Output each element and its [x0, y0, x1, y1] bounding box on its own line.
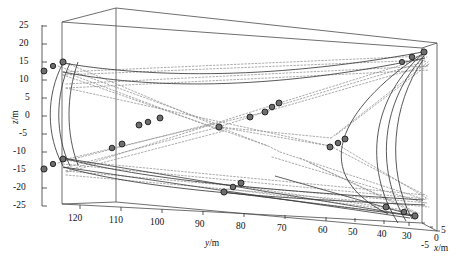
catenary-right-mid	[386, 56, 424, 221]
node-marker	[157, 115, 163, 121]
tether-ul-b	[58, 66, 214, 123]
node-marker	[409, 54, 415, 60]
y-axis-title: y/m	[205, 238, 219, 248]
y-tick-label-30: 30	[402, 232, 412, 242]
z-tick-label-m10: -10	[13, 147, 26, 157]
tether-span-5	[63, 160, 425, 195]
y-tick-label-80: 80	[236, 222, 246, 232]
catenary-bottom-back	[63, 167, 425, 205]
node-marker	[216, 124, 222, 130]
tether-mid-3	[219, 127, 268, 146]
node-marker	[247, 114, 253, 120]
node-marker	[230, 184, 236, 190]
node-marker	[50, 161, 55, 166]
y-tick-label-40: 40	[377, 230, 387, 240]
catenary-top-back	[63, 58, 425, 84]
z-tick-label-m15: -15	[13, 165, 26, 175]
node-marker	[327, 144, 333, 150]
x-axis-title-unit: /m	[438, 243, 448, 253]
node-marker	[60, 156, 66, 162]
catenary-left-inner	[59, 63, 70, 166]
z-axis-title-var: z	[10, 120, 20, 124]
node-marker	[412, 213, 418, 219]
node-marker	[383, 204, 389, 210]
z-tick-label-25: 25	[19, 21, 29, 31]
node-marker	[60, 59, 66, 65]
tether-ll-c	[67, 131, 224, 172]
node-marker	[276, 100, 282, 106]
z-tick-label-m20: -20	[13, 183, 26, 193]
y-tick-label-120: 120	[68, 214, 82, 224]
tether-r-h	[280, 152, 426, 200]
node-marker	[421, 49, 427, 55]
node-marker	[145, 119, 151, 125]
node-marker	[399, 59, 404, 64]
node-marker	[41, 166, 47, 172]
member-lr-2	[63, 167, 410, 218]
catenary-curves-solid	[50, 52, 425, 223]
box-edge-bottom-left	[62, 202, 116, 204]
catenary-left-outer	[50, 63, 63, 166]
z-tick-label-m5: -5	[19, 129, 27, 139]
tether-diag-1	[66, 88, 330, 146]
z-axis-title: z/m	[10, 110, 20, 124]
y-tick-label-110: 110	[109, 216, 123, 226]
node-marker	[50, 63, 55, 68]
node-marker	[269, 104, 275, 110]
figure-3d-mooring-plot: 25 20 15 10 5 0 -5 -10 -15 -20 -25 120 1…	[0, 0, 456, 259]
x-axis-title: x/m	[434, 243, 448, 253]
y-axis-title-unit: /m	[209, 238, 219, 248]
box-edge-top-right	[422, 43, 437, 48]
y-tick-label-90: 90	[195, 220, 205, 230]
y-tick-label-50: 50	[348, 228, 358, 238]
z-tick-label-m25: -25	[13, 201, 26, 211]
node-marker	[238, 180, 244, 186]
z-tick-label-5: 5	[25, 93, 30, 103]
tether-mid-4	[268, 146, 280, 152]
x-tick-label-5: 5	[441, 226, 446, 236]
z-axis-title-unit: /m	[10, 110, 20, 120]
box-edge-top-left	[62, 8, 116, 22]
z-tick-label-20: 20	[19, 39, 29, 49]
node-marker	[136, 122, 142, 128]
tether-diag-2	[66, 104, 276, 171]
y-tick-label-100: 100	[150, 218, 164, 228]
node-marker	[119, 141, 125, 147]
catenary-top-front	[63, 52, 423, 74]
z-tick-label-0: 0	[25, 111, 30, 121]
tether-span-3	[66, 66, 428, 84]
y-tick-label-60: 60	[318, 226, 328, 236]
z-axis	[42, 25, 47, 206]
node-marker	[262, 109, 268, 115]
node-marker	[335, 140, 341, 146]
tether-r-f	[330, 146, 427, 196]
node-marker	[109, 145, 115, 151]
node-marker	[221, 189, 227, 195]
node-marker	[401, 209, 407, 215]
z-tick-label-10: 10	[19, 75, 29, 85]
node-marker	[342, 136, 348, 142]
x-tick-label-m5: -5	[421, 241, 429, 251]
tether-mid-1	[219, 112, 265, 127]
node-marker	[41, 68, 47, 74]
y-tick-label-70: 70	[277, 224, 287, 234]
catenary-right-wide	[341, 52, 425, 214]
z-tick-label-15: 15	[19, 57, 29, 67]
